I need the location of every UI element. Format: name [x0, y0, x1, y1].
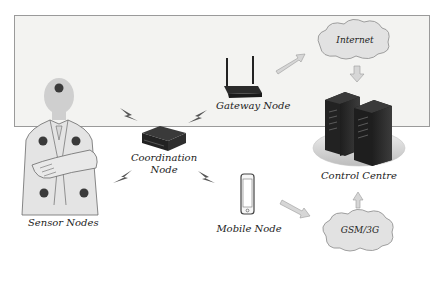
sensor-dot-icon	[40, 189, 49, 198]
mobile-node-label: Mobile Node	[214, 223, 284, 234]
sensor-dot-icon	[80, 189, 89, 198]
sensor-dot-icon	[55, 84, 64, 93]
control-centre-label: Control Centre	[318, 170, 400, 181]
sensor-dot-icon	[39, 137, 48, 146]
coordination-node-label-line2: Node	[128, 164, 200, 175]
coordination-node-icon	[142, 126, 186, 151]
gsm-label: GSM/3G	[336, 225, 384, 235]
sensor-nodes-label: Sensor Nodes	[28, 217, 98, 228]
arrow-gsm-to-control	[353, 192, 363, 208]
coordination-node-label-line1: Coordination	[128, 152, 200, 163]
arrow-mobile-to-gsm	[280, 200, 310, 218]
internet-label: Internet	[330, 35, 380, 45]
gateway-node-label: Gateway Node	[216, 100, 286, 111]
sensor-dot-icon	[72, 137, 81, 146]
mobile-phone-icon	[241, 174, 254, 214]
